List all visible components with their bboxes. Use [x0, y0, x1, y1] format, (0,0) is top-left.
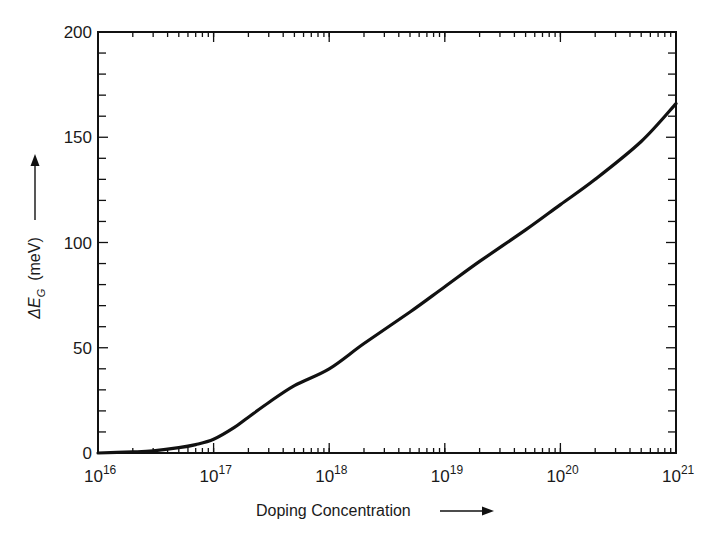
x-axis-title: Doping Concentration [256, 502, 494, 519]
y-axis-arrow-icon [31, 154, 40, 220]
x-axis-arrow-icon [440, 507, 494, 516]
x-tick-label: 1021 [662, 463, 695, 486]
x-tick-label: 1018 [315, 463, 348, 486]
x-tick-label: 1020 [546, 463, 579, 486]
y-axis-unit: (meV) [26, 237, 43, 281]
x-tick-labels: 101610171018101910201021 [84, 463, 695, 486]
x-tick-label: 1016 [84, 463, 117, 486]
y-tick-label: 200 [64, 23, 92, 42]
y-axis-symbol: ΔE [26, 297, 43, 320]
y-tick-label: 100 [64, 234, 92, 253]
plot-frame [98, 32, 676, 453]
y-axis-subscript: G [35, 288, 47, 297]
y-tick-labels: 050100150200 [64, 23, 92, 463]
data-curve [98, 104, 676, 453]
axis-ticks [98, 32, 676, 453]
x-axis-label: Doping Concentration [256, 502, 411, 519]
svg-text:ΔEG(meV): ΔEG(meV) [26, 237, 47, 320]
y-tick-label: 150 [64, 128, 92, 147]
y-tick-label: 50 [73, 339, 92, 358]
y-tick-label: 0 [83, 444, 92, 463]
bandgap-narrowing-chart: 050100150200 101610171018101910201021 ΔE… [0, 0, 713, 542]
x-tick-label: 1019 [431, 463, 464, 486]
y-axis-title: ΔEG(meV) [26, 154, 47, 320]
x-tick-label: 1017 [200, 463, 233, 486]
